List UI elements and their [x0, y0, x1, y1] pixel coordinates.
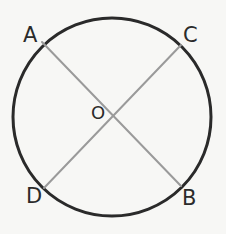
chord-ab	[42, 42, 181, 186]
vertex-label-b: B	[182, 188, 196, 209]
circle-diagram: A C D B O	[0, 0, 226, 234]
center-label-o: O	[91, 104, 105, 122]
vertex-label-d: D	[26, 186, 42, 207]
vertex-label-c: C	[183, 25, 198, 46]
vertex-label-a: A	[23, 25, 37, 46]
